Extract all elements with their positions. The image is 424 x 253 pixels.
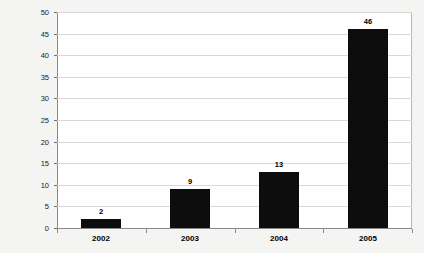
y-axis-tick-label: 30	[23, 94, 49, 103]
x-axis-tick-label: 2003	[181, 234, 199, 243]
y-axis-tick-label: 20	[23, 138, 49, 147]
x-axis-tick-mark	[235, 229, 236, 233]
y-axis-tick-mark	[54, 142, 57, 143]
y-axis-tick-mark	[54, 77, 57, 78]
y-axis-tick-mark	[54, 12, 57, 13]
gridline	[57, 12, 412, 13]
y-axis-tick-mark	[54, 55, 57, 56]
y-axis-tick-mark	[54, 34, 57, 35]
x-axis-tick-label: 2004	[270, 234, 288, 243]
y-axis-tick-mark	[54, 163, 57, 164]
bar-value-label: 9	[188, 177, 192, 186]
x-axis-tick-mark	[412, 229, 413, 233]
y-axis-tick-label: 45	[23, 30, 49, 39]
bar-chart-figure: 05101520253035404550 291346 200220032004…	[0, 0, 424, 253]
bar-value-label: 46	[364, 17, 372, 26]
bar[interactable]	[348, 29, 388, 228]
y-axis-tick-label: 25	[23, 116, 49, 125]
bar[interactable]	[81, 219, 121, 228]
y-axis-tick-label: 40	[23, 51, 49, 60]
y-axis-tick-mark	[54, 98, 57, 99]
bar[interactable]	[259, 172, 299, 228]
x-axis-tick-label: 2005	[359, 234, 377, 243]
x-axis-tick-mark	[146, 229, 147, 233]
bar[interactable]	[170, 189, 210, 228]
y-axis-tick-label: 5	[23, 202, 49, 211]
y-axis-tick-mark	[54, 120, 57, 121]
bar-value-label: 13	[275, 160, 283, 169]
y-axis-tick-label: 10	[23, 181, 49, 190]
y-axis-tick-label: 35	[23, 73, 49, 82]
x-axis-tick-label: 2002	[92, 234, 110, 243]
y-axis-tick-label: 15	[23, 159, 49, 168]
bar-value-label: 2	[99, 207, 103, 216]
y-axis-tick-mark	[54, 185, 57, 186]
y-axis-tick-label: 0	[23, 224, 49, 233]
x-axis-tick-mark	[323, 229, 324, 233]
y-axis-tick-mark	[54, 206, 57, 207]
y-axis-tick-label: 50	[23, 8, 49, 17]
x-axis-tick-mark	[57, 229, 58, 233]
